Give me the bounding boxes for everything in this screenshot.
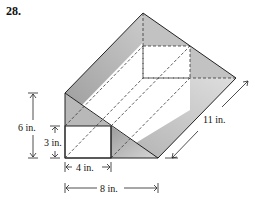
label-8in: 8 in. (100, 183, 118, 194)
prism-diagram: 6 in. 3 in. 4 in. 8 in. 11 in. (0, 0, 255, 203)
label-6in: 6 in. (18, 122, 36, 133)
label-4in: 4 in. (76, 162, 94, 173)
front-square-cutout (65, 126, 111, 158)
label-3in: 3 in. (44, 137, 62, 148)
label-11in: 11 in. (203, 114, 225, 125)
